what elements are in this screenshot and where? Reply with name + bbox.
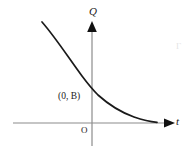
y-axis-arrowhead [87, 21, 97, 32]
decay-curve [42, 22, 157, 122]
scan-artifact-mark: Г [176, 42, 185, 53]
x-axis-arrowhead [164, 118, 175, 127]
graph-canvas [0, 0, 195, 156]
intercept-point-label: (0, B) [58, 92, 80, 102]
x-axis-label: t [176, 116, 179, 127]
origin-label: O [81, 126, 88, 135]
y-axis-label: Q [89, 6, 97, 17]
